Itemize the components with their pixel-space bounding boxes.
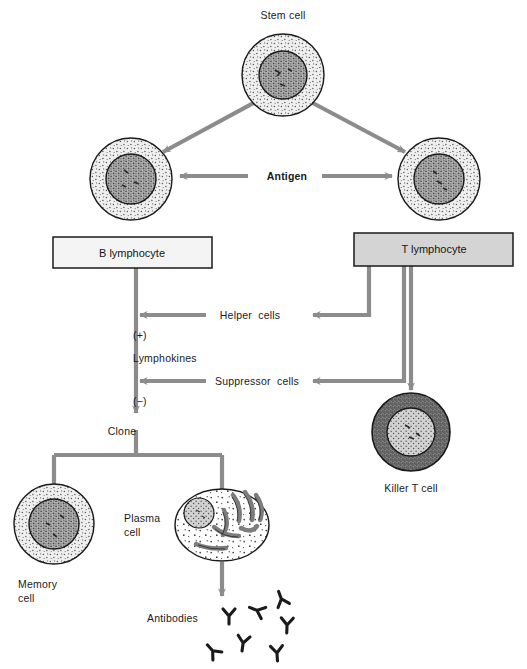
antibody-layer: [203, 589, 293, 661]
cell-killer-t: [372, 393, 450, 471]
label-b-lymphocyte-box: B lymphocyte: [99, 247, 165, 259]
label-minus-sign: (−): [133, 395, 147, 408]
cell-t-lymphocyte: [398, 138, 480, 220]
label-memory-cell-line1: Memory: [18, 578, 57, 591]
antibody-icon: [247, 602, 265, 619]
antibody-icon: [203, 641, 222, 660]
label-plasma-cell-line1: Plasma: [124, 512, 160, 525]
cell-plasma: [175, 489, 269, 561]
label-plasma-cell-line2: cell: [124, 526, 141, 539]
cell-b-lymphocyte: [90, 138, 172, 220]
antibody-icon: [273, 589, 289, 607]
arrow-t-to-suppressor: [313, 266, 404, 381]
figure-canvas: Stem cell Antigen B lymphocyte T lymphoc…: [0, 0, 527, 669]
label-plus-sign: (+): [133, 329, 147, 342]
antibody-icon: [270, 646, 283, 662]
cell-stem: [242, 34, 324, 116]
arrow-stem-to-t: [309, 101, 405, 152]
clone-split-connector: [54, 430, 222, 490]
label-helper-cells: Helper cells: [220, 309, 280, 322]
label-antibodies: Antibodies: [147, 612, 198, 625]
label-clone: Clone: [108, 425, 136, 438]
antibody-icon: [281, 618, 294, 633]
label-memory-cell-line2: cell: [18, 592, 35, 605]
antibody-icon: [236, 635, 250, 652]
arrow-t-to-helper: [313, 266, 369, 315]
label-stem-cell: Stem cell: [261, 9, 306, 22]
antibody-icon: [223, 609, 235, 624]
cell-memory: [14, 484, 94, 564]
label-killer-t-cell: Killer T cell: [384, 482, 438, 495]
label-antigen: Antigen: [267, 170, 307, 183]
label-t-lymphocyte-box: T lymphocyte: [401, 243, 466, 255]
label-lymphokines: Lymphokines: [133, 352, 197, 365]
label-suppressor-cells: Suppressor cells: [215, 375, 299, 388]
immune-response-diagram: [0, 0, 527, 669]
arrow-stem-to-b: [163, 101, 257, 152]
